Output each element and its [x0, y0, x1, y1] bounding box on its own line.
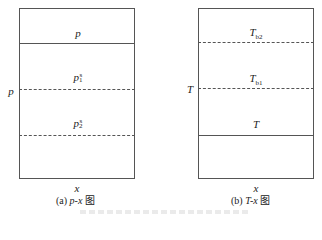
panel-a-p-line: [19, 43, 135, 44]
panel-b-y-axis-label: T: [185, 84, 195, 95]
panel-b-tb1-label: Tb1: [240, 73, 272, 87]
panel-a-p2s-line: [19, 135, 135, 136]
panel-b-t-line: [198, 135, 314, 136]
panel-a-p1s-label: ps1: [64, 72, 92, 84]
panel-a-x-axis-label: x: [70, 183, 84, 194]
panel-b-tb1-line: [198, 88, 314, 89]
panel-a-y-axis-label: p: [6, 86, 16, 97]
figure-caption-faint: [80, 210, 250, 214]
panel-a-top-label: p: [68, 28, 88, 39]
panel-b-caption: (b) T-x 图: [231, 196, 270, 206]
panel-b-tb2-line: [198, 42, 314, 43]
panel-a-p1s-line: [19, 89, 135, 90]
panel-b-tb2-label: Tb2: [240, 27, 272, 41]
panel-b-x-axis-label: x: [249, 183, 263, 194]
panel-a-p2s-label: ps2: [64, 118, 92, 130]
panel-a-caption: (a) p-x 图: [56, 196, 95, 206]
panel-b-t-label: T: [246, 119, 266, 130]
